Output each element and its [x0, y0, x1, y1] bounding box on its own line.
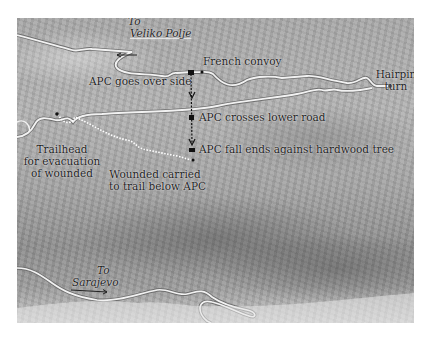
label-to-south: To [97, 264, 110, 276]
arrow-right-icon [71, 290, 107, 295]
label-wounded-carried: Wounded carried to trail below APC [109, 168, 201, 192]
label-veliko-polje: Veliko Polje [130, 27, 191, 39]
label-french-convoy: French convoy [203, 55, 281, 67]
marker-wounded [191, 158, 194, 161]
label-sarajevo: Sarajevo [72, 276, 118, 288]
label-to-north: To [128, 18, 141, 27]
down-arrow-icon [189, 92, 195, 98]
trail-loop [17, 121, 29, 132]
label-apc-over-side: APC goes over side [89, 75, 192, 87]
marker-apc-crossing [189, 115, 194, 120]
marker-trailhead [55, 112, 59, 116]
marker-apc-end [189, 148, 195, 152]
marker-french-convoy [200, 70, 203, 73]
terrain-map: To Veliko Polje French convoy APC goes o… [17, 18, 414, 323]
label-apc-fall-ends: APC fall ends against hardwood tree [199, 143, 394, 155]
label-apc-crosses: APC crosses lower road [199, 111, 326, 123]
label-hairpin-turn: Hairpin turn [371, 68, 414, 92]
label-trailhead: Trailhead for evacuation of wounded [22, 143, 102, 179]
